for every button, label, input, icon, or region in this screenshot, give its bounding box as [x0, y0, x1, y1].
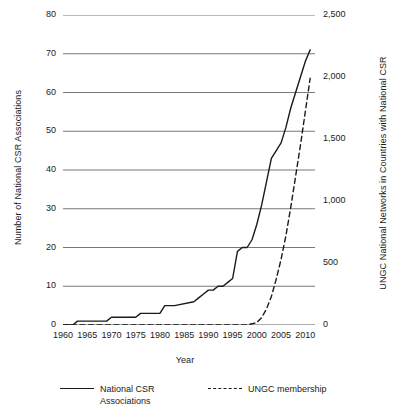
legend-sample-1: [60, 388, 94, 390]
y-tick-right-2,500: 2,500: [323, 9, 363, 19]
series-line-2: [63, 78, 310, 325]
y-tick-right-1,500: 1,500: [323, 133, 363, 143]
y-tick-right-0: 0: [323, 319, 363, 329]
series-lines: [63, 50, 310, 325]
y-tick-left-20: 20: [26, 242, 56, 252]
y-tick-right-2,000: 2,000: [323, 71, 363, 81]
y-tick-right-500: 500: [323, 257, 363, 267]
y-axis-right-title: UNGC National Networks in Countries with…: [378, 48, 388, 298]
legend-label-1: National CSR Associations: [100, 383, 155, 407]
series-line-1: [63, 50, 310, 325]
x-tick-2010: 2010: [290, 330, 320, 340]
y-tick-left-40: 40: [26, 164, 56, 174]
plot-svg: [63, 15, 315, 325]
y-tick-right-1,000: 1,000: [323, 195, 363, 205]
y-axis-left-title: Number of National CSR Associations: [13, 95, 23, 245]
x-axis-title: Year: [55, 355, 315, 365]
y-tick-left-50: 50: [26, 125, 56, 135]
y-tick-left-30: 30: [26, 203, 56, 213]
plot-area: [63, 15, 315, 325]
y-tick-left-60: 60: [26, 87, 56, 97]
y-tick-left-80: 80: [26, 9, 56, 19]
legend-sample-2: [208, 388, 242, 390]
y-tick-left-0: 0: [26, 319, 56, 329]
gridlines: [63, 15, 315, 325]
chart-legend: National CSR AssociationsUNGC membership: [60, 383, 360, 413]
chart-figure: Number of National CSR Associations UNGC…: [0, 0, 395, 415]
y-tick-left-10: 10: [26, 280, 56, 290]
y-tick-left-70: 70: [26, 48, 56, 58]
legend-label-2: UNGC membership: [248, 383, 327, 395]
